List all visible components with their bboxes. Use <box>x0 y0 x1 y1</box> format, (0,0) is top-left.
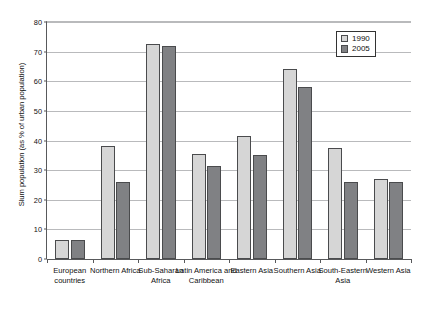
x-tick-mark <box>411 259 412 263</box>
bar-group <box>184 22 230 259</box>
x-tick-mark <box>320 259 321 263</box>
bar-2005 <box>253 155 267 259</box>
bar-group <box>320 22 366 259</box>
legend-item-2005: 2005 <box>341 45 370 53</box>
x-tick-mark <box>366 259 367 263</box>
bar-1990 <box>374 179 388 259</box>
legend-swatch-2005 <box>341 45 349 53</box>
bar-2005 <box>207 166 221 259</box>
y-tick-label: 70 <box>34 47 42 56</box>
y-tick-label: 60 <box>34 77 42 86</box>
bar-2005 <box>71 240 85 259</box>
x-tick-mark <box>229 259 230 263</box>
x-tick-mark <box>184 259 185 263</box>
legend-label-2005: 2005 <box>352 45 370 53</box>
bar-1990 <box>101 146 115 259</box>
bar-2005 <box>116 182 130 259</box>
x-tick-mark <box>47 259 48 263</box>
bar-2005 <box>298 87 312 259</box>
y-tick-label: 20 <box>34 195 42 204</box>
x-axis-label: Western Asia <box>357 266 419 276</box>
y-tick-label: 50 <box>34 106 42 115</box>
bar-2005 <box>344 182 358 259</box>
legend-swatch-1990 <box>341 35 349 43</box>
x-tick-mark <box>275 259 276 263</box>
y-tick-label: 0 <box>38 255 42 264</box>
bar-group <box>275 22 321 259</box>
bar-2005 <box>389 182 403 259</box>
bar-2005 <box>162 46 176 259</box>
bar-1990 <box>55 240 69 259</box>
y-tick-label: 80 <box>34 18 42 27</box>
bar-1990 <box>237 136 251 259</box>
x-tick-mark <box>138 259 139 263</box>
bar-group <box>93 22 139 259</box>
legend-label-1990: 1990 <box>352 35 370 43</box>
y-tick-label: 40 <box>34 136 42 145</box>
bar-1990 <box>146 44 160 259</box>
bar-group <box>366 22 412 259</box>
bar-group <box>138 22 184 259</box>
bar-group <box>229 22 275 259</box>
y-tick-label: 30 <box>34 166 42 175</box>
y-axis-title: Slum population (as % of urban populatio… <box>17 15 26 255</box>
bar-chart: Slum population (as % of urban populatio… <box>0 0 425 311</box>
legend-item-1990: 1990 <box>341 35 370 43</box>
bar-group <box>47 22 93 259</box>
chart-legend: 1990 2005 <box>336 31 376 57</box>
x-tick-mark <box>93 259 94 263</box>
y-tick-label: 10 <box>34 225 42 234</box>
bar-1990 <box>192 154 206 259</box>
bar-1990 <box>328 148 342 259</box>
bar-1990 <box>283 69 297 259</box>
